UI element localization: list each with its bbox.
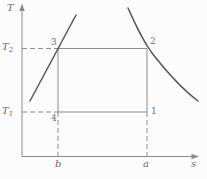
x-tick-a: a: [143, 159, 149, 169]
diagram-canvas: [0, 0, 207, 179]
ts-cycle-diagram: T s T2 T1 b a 3 2 4 1: [0, 0, 207, 179]
x-tick-b: b: [55, 159, 61, 169]
y-tick-t1-main: T: [2, 105, 9, 116]
y-tick-t2-main: T: [2, 41, 9, 52]
y-axis-label: T: [7, 3, 14, 13]
y-tick-t1-sub: 1: [9, 110, 13, 118]
point-label-3: 3: [51, 38, 57, 47]
y-tick-t2: T2: [2, 42, 13, 54]
point-label-1: 1: [151, 107, 157, 116]
y-tick-t1: T1: [2, 106, 13, 118]
falling-curve: [128, 8, 198, 101]
point-label-4: 4: [51, 114, 57, 123]
x-axis-label: s: [191, 159, 196, 169]
y-axis-arrow-icon: [19, 4, 24, 12]
rising-curve: [30, 15, 76, 101]
y-tick-t2-sub: 2: [9, 46, 13, 54]
point-label-2: 2: [150, 37, 156, 46]
